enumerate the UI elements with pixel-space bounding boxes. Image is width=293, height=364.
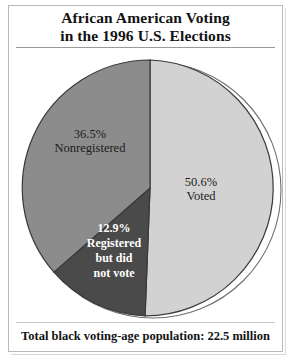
pie-label-registered-not-voted-line-3: not vote — [59, 266, 169, 281]
chart-title-line-2: in the 1996 U.S. Elections — [10, 27, 281, 45]
pie-label-voted-percent: 50.6% — [149, 175, 253, 189]
figure-root: African American Voting in the 1996 U.S.… — [0, 0, 293, 364]
pie-label-registered-not-voted-percent: 12.9% — [59, 221, 169, 236]
footer-divider — [16, 322, 275, 323]
chart-footnote: Total black voting-age population: 22.5 … — [10, 329, 281, 344]
pie-label-voted: 50.6% Voted — [149, 175, 253, 203]
pie-label-nonregistered-name: Nonregistered — [27, 141, 153, 155]
pie-label-registered-not-voted: 12.9% Registered but did not vote — [59, 221, 169, 281]
pie-label-nonregistered: 36.5% Nonregistered — [27, 127, 153, 155]
chart-title-line-1: African American Voting — [10, 9, 281, 27]
pie-label-registered-not-voted-line-2: but did — [59, 251, 169, 266]
title-divider — [16, 47, 275, 48]
chart-title: African American Voting in the 1996 U.S.… — [10, 9, 281, 45]
pie-chart: 36.5% Nonregistered 50.6% Voted 12.9% Re… — [9, 49, 282, 321]
pie-label-nonregistered-percent: 36.5% — [27, 127, 153, 141]
pie-label-voted-name: Voted — [149, 189, 253, 203]
pie-label-registered-not-voted-line-1: Registered — [59, 236, 169, 251]
